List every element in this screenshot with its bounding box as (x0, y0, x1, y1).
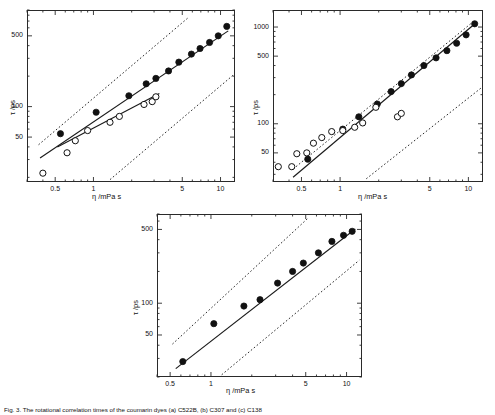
data-point-filled-circles (188, 51, 194, 57)
data-point-open-circles (304, 150, 310, 156)
data-point-open-circles (340, 127, 346, 133)
y-tick-label: 500 (247, 52, 269, 59)
x-tick-label: 10 (336, 380, 358, 387)
y-tick-label: 100 (131, 299, 153, 306)
reference-line-stick-limit (293, 20, 475, 169)
panel-c-canvas (125, 205, 375, 400)
data-point-filled-circles (165, 68, 171, 74)
fit-line-fit-filled (176, 229, 356, 369)
data-point-open-circles (319, 134, 325, 140)
data-point-open-circles (141, 101, 147, 107)
data-point-filled-circles (241, 303, 247, 309)
data-point-filled-circles (444, 48, 450, 54)
reference-line-stick-limit (39, 17, 189, 144)
data-point-open-circles (64, 150, 70, 156)
data-point-open-circles (398, 110, 404, 116)
data-point-filled-circles (215, 33, 221, 39)
data-point-open-circles (275, 164, 281, 170)
x-tick-label: 0.5 (290, 185, 312, 192)
x-tick-label: 0.5 (44, 185, 66, 192)
data-point-filled-circles (197, 45, 203, 51)
data-point-filled-circles (388, 89, 394, 95)
data-point-filled-circles (176, 59, 182, 65)
data-point-open-circles (329, 128, 335, 134)
data-point-filled-circles (300, 260, 306, 266)
x-tick-label: 10 (210, 185, 232, 192)
data-point-filled-circles (143, 81, 149, 87)
data-point-filled-circles (305, 156, 311, 162)
data-point-filled-circles (398, 81, 404, 87)
data-point-filled-circles (463, 32, 469, 38)
data-point-filled-circles (454, 40, 460, 46)
x-tick-label: 1 (200, 380, 222, 387)
data-point-filled-circles (349, 228, 355, 234)
y-tick-label: 500 (131, 225, 153, 232)
x-tick-label: 0.5 (159, 380, 181, 387)
panel-b-canvas (248, 0, 495, 205)
data-point-open-circles (294, 151, 300, 157)
data-point-filled-circles (274, 280, 280, 286)
x-tick-label: 1 (329, 185, 351, 192)
data-point-filled-circles (153, 75, 159, 81)
data-point-filled-circles (57, 131, 63, 137)
data-point-filled-circles (472, 21, 478, 27)
data-point-open-circles (107, 119, 113, 125)
data-point-open-circles (85, 127, 91, 133)
data-point-open-circles (40, 170, 46, 176)
y-tick-label: 50 (1, 133, 23, 140)
y-tick-label: 100 (247, 119, 269, 126)
data-point-filled-circles (206, 39, 212, 45)
x-tick-label: 5 (171, 185, 193, 192)
data-point-filled-circles (289, 268, 295, 274)
data-point-open-circles (310, 140, 316, 146)
data-point-filled-circles (433, 55, 439, 61)
y-tick-label: 1000 (247, 23, 269, 30)
data-point-open-circles (289, 164, 295, 170)
data-point-filled-circles (408, 72, 414, 78)
data-point-open-circles (373, 104, 379, 110)
data-point-open-circles (352, 124, 358, 130)
data-point-filled-circles (224, 23, 230, 29)
data-point-open-circles (116, 113, 122, 119)
panel-a-canvas (0, 0, 245, 205)
data-point-filled-circles (257, 297, 263, 303)
y-tick-label: 100 (1, 102, 23, 109)
y-tick-label: 50 (131, 330, 153, 337)
panel-b: (b) C307 τ /ps η /mPa s 5010050010000.51… (248, 0, 495, 205)
x-tick-label: 5 (295, 380, 317, 387)
panel-c: (c) C138 τ /ps η /mPa s 501005000.51510 (125, 205, 375, 400)
y-tick-label: 50 (247, 148, 269, 155)
data-point-filled-circles (211, 321, 217, 327)
data-point-filled-circles (329, 238, 335, 244)
x-tick-label: 1 (82, 185, 104, 192)
data-point-open-circles (360, 120, 366, 126)
reference-line-slip-limit (110, 75, 233, 180)
data-point-filled-circles (126, 93, 132, 99)
panel-a: (a) C522B τ /ps η /mPa s 501005000.51510 (0, 0, 245, 205)
data-point-open-circles (72, 138, 78, 144)
data-point-filled-circles (356, 114, 362, 120)
figure-caption: Fig. 3. The rotational correlation times… (4, 406, 495, 414)
data-point-filled-circles (315, 250, 321, 256)
fit-line-fit-filled (293, 22, 477, 177)
y-tick-label: 500 (1, 31, 23, 38)
x-tick-label: 5 (419, 185, 441, 192)
data-point-open-circles (153, 94, 159, 100)
x-tick-label: 10 (457, 185, 479, 192)
data-point-filled-circles (340, 232, 346, 238)
data-point-filled-circles (93, 109, 99, 115)
data-point-filled-circles (421, 62, 427, 68)
data-point-filled-circles (180, 358, 186, 364)
